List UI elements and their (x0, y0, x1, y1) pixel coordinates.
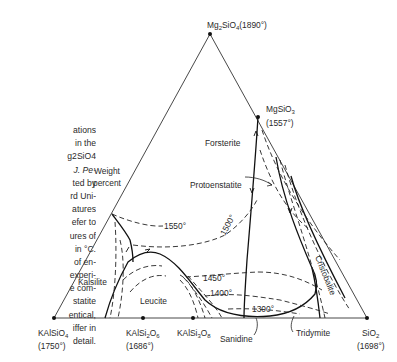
field-label-kalsilite: Kalsilite (78, 277, 107, 287)
isotherm-label-1450: 1450° (203, 273, 225, 283)
ternary-phase-diagram: Mg2SiO4(1890°) MgSiO3 (1557°) KAlSiO4 (1… (0, 0, 397, 362)
vertex-temp-kalsio4: (1750°) (38, 341, 66, 351)
kalsi2o6-point (141, 316, 145, 320)
compound-temp-kalsi2o6: (1686°) (126, 341, 154, 351)
compound-temp-mgsio3: (1557°) (266, 118, 294, 128)
field-label-tridymite: Tridymite (296, 328, 330, 338)
vertex-temp-sio2: (1698°) (357, 341, 385, 351)
isotherm-label-1400: 1400° (210, 288, 232, 298)
kalsi3o8-point (191, 316, 195, 320)
leader-line (254, 318, 257, 335)
field-label-sanidine: Sanidine (220, 334, 253, 344)
vertex-label-sio2: SiO2 (362, 328, 380, 339)
sio2-point (365, 316, 369, 320)
isotherm-label-1550: 1550° (164, 221, 186, 231)
compound-label-kalsi2o6: KAlSi2O6 (126, 328, 160, 339)
vertex-label-kalsio4: KAlSiO4 (38, 328, 69, 339)
isotherm-label-1300: 1300° (252, 304, 274, 314)
field-label-protoenstatite: Protoenstatite (190, 180, 242, 190)
compound-label-kalsi3o8: KAlSi3O8 (177, 328, 211, 339)
field-label-forsterite: Forsterite (205, 138, 241, 148)
vertex-label-mg2sio4: Mg2SiO4(1890°) (207, 20, 267, 31)
field-label-leucite: Leucite (140, 296, 167, 306)
direction-arrows (126, 131, 292, 253)
compound-label-mgsio3: MgSiO3 (266, 104, 296, 115)
kalsio4-point (52, 316, 56, 320)
isotherm-label-1500: 1500° (218, 213, 237, 237)
leader-line (245, 177, 272, 185)
mg2sio4-point (208, 32, 212, 36)
axis-note-weight: Weight (94, 166, 121, 176)
axis-note-percent: percent (93, 178, 122, 188)
